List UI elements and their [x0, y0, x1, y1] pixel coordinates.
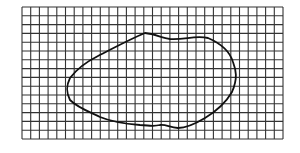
grid-lines: [22, 7, 283, 139]
closed-curve-outline: [67, 33, 236, 128]
grid-diagram: [0, 0, 300, 153]
